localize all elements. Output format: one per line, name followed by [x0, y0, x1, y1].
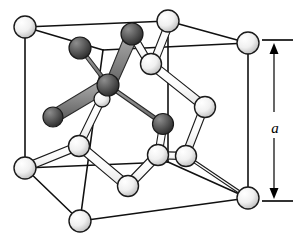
dark-sphere-atom [121, 23, 143, 45]
light-sphere-atom [237, 187, 259, 209]
dark-sphere-atom [97, 74, 119, 96]
lattice-dimension-annotation: a [262, 40, 293, 201]
dark-sphere-atom [153, 114, 174, 135]
lattice-parameter-label: a [271, 120, 279, 136]
light-sphere-atom [69, 210, 91, 232]
dimension-arrowhead-up [270, 43, 279, 54]
cube-edge-bottom-front [80, 198, 248, 221]
dark-sphere-atom [69, 37, 91, 59]
light-sphere-atom [14, 157, 36, 179]
light-sphere-atom [148, 145, 169, 166]
dark-sphere-atom [43, 107, 63, 127]
light-sphere-atom [141, 54, 162, 75]
light-sphere-atom [195, 97, 216, 118]
light-sphere-atom [237, 32, 259, 54]
light-sphere-atom [14, 16, 36, 38]
light-sphere-atom [118, 176, 139, 197]
crystal-structure-figure: a [0, 0, 305, 244]
cube-edge-top-right [168, 21, 248, 43]
light-sphere-atom [176, 146, 197, 167]
crystal-structure-diagram: a [0, 0, 305, 244]
cube-edge-top-back [25, 21, 168, 27]
cube-edge-bottom-right [168, 162, 248, 198]
light-sphere-atom [69, 136, 90, 157]
dimension-arrowhead-down [270, 188, 279, 199]
dark-atom-group [43, 23, 174, 135]
light-sphere-atom [157, 10, 179, 32]
